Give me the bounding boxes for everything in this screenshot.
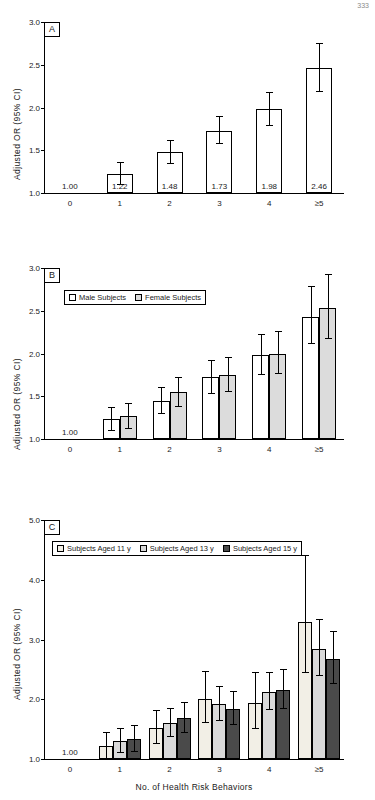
error-bar-cap xyxy=(153,743,160,744)
panel-c-y-axis-label: Adjusted OR (95% CI) xyxy=(12,608,22,700)
y-tick-label: 4.0 xyxy=(29,575,40,584)
bar-value-label: 1.00 xyxy=(62,748,78,757)
panel-b-legend: Male SubjectsFemale Subjects xyxy=(64,290,206,305)
panel-c-x-axis-label: No. of Health Risk Behaviors xyxy=(44,782,344,792)
error-bar-cap xyxy=(325,338,332,339)
error-bar xyxy=(156,710,157,743)
y-tick xyxy=(41,108,45,109)
error-bar xyxy=(106,732,107,758)
legend-item: Subjects Aged 11 y xyxy=(57,544,131,553)
y-tick-label: 2.5 xyxy=(29,306,40,315)
error-bar-cap xyxy=(308,286,315,287)
error-bar-cap xyxy=(216,720,223,721)
panel-c-plot-area: 1.02.03.04.05.001.001234≥5 xyxy=(44,520,344,760)
error-bar-cap xyxy=(330,683,337,684)
y-tick xyxy=(41,311,45,312)
x-tick-label: 0 xyxy=(68,765,72,774)
x-tick-label: 1 xyxy=(118,199,122,208)
page-corner-number: 333 xyxy=(357,2,369,9)
legend-label: Female Subjects xyxy=(145,293,201,302)
error-bar xyxy=(170,708,171,737)
legend-label: Subjects Aged 13 y xyxy=(150,544,214,553)
error-bar-cap xyxy=(266,92,273,93)
x-tick-label: 1 xyxy=(118,765,122,774)
error-bar-cap xyxy=(225,357,232,358)
error-bar-cap xyxy=(158,387,165,388)
error-bar-cap xyxy=(125,428,132,429)
error-bar xyxy=(228,357,229,391)
y-tick-label: 2.0 xyxy=(29,103,40,112)
error-bar-cap xyxy=(252,728,259,729)
error-bar xyxy=(283,669,284,708)
error-bar xyxy=(328,274,329,338)
bar-value-label: 1.00 xyxy=(62,428,78,437)
error-bar-cap xyxy=(216,116,223,117)
bar-value-label: 1.48 xyxy=(162,182,178,191)
x-tick-label: 4 xyxy=(267,199,271,208)
y-tick xyxy=(41,759,45,760)
error-bar-cap xyxy=(208,360,215,361)
error-bar-cap xyxy=(167,708,174,709)
legend-swatch xyxy=(69,294,76,301)
error-bar xyxy=(261,334,262,374)
error-bar-cap xyxy=(225,391,232,392)
error-bar-cap xyxy=(167,163,174,164)
legend-label: Male Subjects xyxy=(79,293,126,302)
error-bar xyxy=(219,116,220,143)
x-tick-label: 1 xyxy=(118,445,122,454)
error-bar-cap xyxy=(175,406,182,407)
y-tick-label: 1.5 xyxy=(29,146,40,155)
error-bar-cap xyxy=(167,140,174,141)
panel-b-letter: B xyxy=(44,268,60,283)
error-bar xyxy=(319,43,320,92)
error-bar-cap xyxy=(280,708,287,709)
error-bar-cap xyxy=(302,555,309,556)
y-tick xyxy=(41,640,45,641)
error-bar-cap xyxy=(258,334,265,335)
error-bar-cap xyxy=(103,758,110,759)
x-tick-label: 4 xyxy=(267,445,271,454)
y-tick-label: 2.5 xyxy=(29,60,40,69)
error-bar-cap xyxy=(108,430,115,431)
error-bar xyxy=(120,728,121,752)
error-bar xyxy=(170,140,171,163)
error-bar xyxy=(184,702,185,732)
panel-a-letter: A xyxy=(44,22,60,37)
error-bar xyxy=(305,555,306,672)
error-bar-cap xyxy=(202,722,209,723)
error-bar-cap xyxy=(153,710,160,711)
y-tick-label: 1.0 xyxy=(29,755,40,764)
error-bar xyxy=(161,387,162,414)
y-tick-label: 2.0 xyxy=(29,349,40,358)
x-tick-label: 0 xyxy=(68,199,72,208)
error-bar xyxy=(278,331,279,373)
error-bar-cap xyxy=(202,671,209,672)
x-tick-label: 3 xyxy=(217,199,221,208)
error-bar-cap xyxy=(230,691,237,692)
error-bar-cap xyxy=(117,162,124,163)
error-bar xyxy=(233,691,234,723)
error-bar-cap xyxy=(316,675,323,676)
x-tick-label: ≥5 xyxy=(315,765,324,774)
panel-c-legend: Subjects Aged 11 ySubjects Aged 13 ySubj… xyxy=(52,541,302,556)
y-tick-label: 1.5 xyxy=(29,392,40,401)
error-bar xyxy=(311,286,312,343)
error-bar xyxy=(255,672,256,728)
error-bar-cap xyxy=(117,752,124,753)
error-bar-cap xyxy=(208,393,215,394)
figure-root: 333 Adjusted OR (95% CI) A 1.01.52.02.53… xyxy=(0,0,375,800)
error-bar-cap xyxy=(302,672,309,673)
y-tick xyxy=(41,580,45,581)
legend-swatch xyxy=(57,545,64,552)
error-bar-cap xyxy=(308,343,315,344)
error-bar-cap xyxy=(266,125,273,126)
y-tick xyxy=(41,396,45,397)
error-bar-cap xyxy=(230,724,237,725)
y-tick-label: 5.0 xyxy=(29,516,40,525)
y-tick xyxy=(41,65,45,66)
error-bar-cap xyxy=(275,331,282,332)
legend-label: Subjects Aged 15 y xyxy=(233,544,297,553)
error-bar-cap xyxy=(280,669,287,670)
error-bar xyxy=(178,377,179,405)
error-bar xyxy=(211,360,212,392)
